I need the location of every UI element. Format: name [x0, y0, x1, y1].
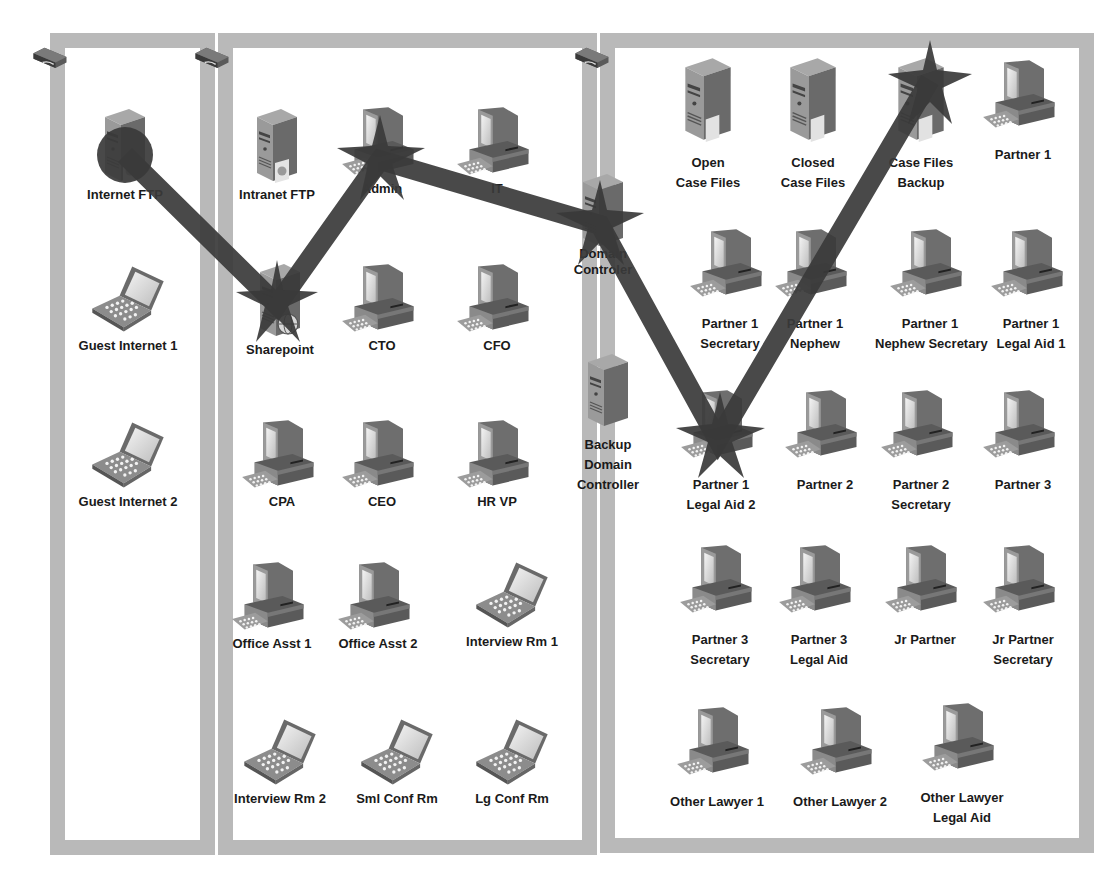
- desktop-icon: [989, 214, 1073, 314]
- node-label: Guest Internet 1: [73, 338, 183, 354]
- node-label: CFO: [442, 338, 552, 354]
- node-partner-1-legal-aid-1[interactable]: Partner 1 Legal Aid 1: [976, 214, 1086, 352]
- node-partner-1-legal-aid-2[interactable]: Partner 1 Legal Aid 2: [666, 375, 776, 513]
- node-sml-conf-rm[interactable]: Sml Conf Rm: [342, 715, 452, 807]
- node-internet-ftp[interactable]: Internet FTP: [70, 105, 180, 203]
- node-label: Nephew: [760, 336, 870, 352]
- node-label: Case Files: [653, 175, 763, 191]
- desktop-icon: [679, 375, 763, 475]
- desktop-icon: [230, 560, 314, 634]
- node-partner-1[interactable]: Partner 1: [968, 45, 1078, 163]
- node-label: CEO: [327, 494, 437, 510]
- node-ceo[interactable]: CEO: [327, 418, 437, 510]
- node-office-asst-1[interactable]: Office Asst 1: [217, 560, 327, 652]
- node-label: IT: [442, 181, 552, 197]
- node-partner-2[interactable]: Partner 2: [770, 375, 880, 493]
- node-label: Legal Aid 1: [976, 336, 1086, 352]
- node-label: Backup: [553, 437, 663, 453]
- node-backup-domain-controller[interactable]: Backup Domain Controller: [553, 345, 663, 493]
- node-office-asst-2[interactable]: Office Asst 2: [323, 560, 433, 652]
- node-hr-vp[interactable]: HR VP: [442, 418, 552, 510]
- router-icon[interactable]: [30, 46, 70, 68]
- node-label: CPA: [227, 494, 337, 510]
- node-label: Domain: [553, 457, 663, 473]
- node-it[interactable]: IT: [442, 105, 552, 197]
- node-admin[interactable]: Admin: [327, 105, 437, 197]
- node-label: Other Lawyer 2: [785, 794, 895, 810]
- node-label: Partner 1: [760, 316, 870, 332]
- ftp-server-icon: [95, 105, 155, 185]
- node-partner-3-legal-aid[interactable]: Partner 3 Legal Aid: [764, 530, 874, 668]
- file-server-icon: [674, 45, 742, 153]
- node-label: Backup: [866, 175, 976, 191]
- node-label: Secretary: [866, 497, 976, 513]
- node-case-files-backup[interactable]: Case Files Backup: [866, 45, 976, 191]
- desktop-icon: [455, 418, 539, 492]
- node-guest-internet-2[interactable]: Guest Internet 2: [73, 418, 183, 510]
- node-partner-3-secretary[interactable]: Partner 3 Secretary: [665, 530, 775, 668]
- desktop-icon: [879, 375, 963, 475]
- node-guest-internet-1[interactable]: Guest Internet 1: [73, 262, 183, 354]
- node-sharepoint[interactable]: Sharepoint: [225, 260, 335, 358]
- desktop-icon: [336, 560, 420, 634]
- node-label: Admin: [327, 181, 437, 197]
- node-label: Interview Rm 2: [225, 791, 335, 807]
- node-label: CTO: [327, 338, 437, 354]
- router-icon[interactable]: [572, 46, 612, 68]
- node-label: Sml Conf Rm: [342, 791, 452, 807]
- server-icon: [573, 170, 633, 250]
- desktop-icon: [981, 45, 1065, 145]
- node-cfo[interactable]: CFO: [442, 262, 552, 354]
- node-label: Interview Rm 1: [457, 634, 567, 650]
- node-label: Secretary: [968, 652, 1078, 668]
- node-label: Legal Aid: [907, 810, 1017, 826]
- desktop-icon: [455, 105, 539, 179]
- desktop-icon: [783, 375, 867, 475]
- node-partner-1-nephew-secretary[interactable]: Partner 1 Nephew Secretary: [875, 214, 985, 352]
- node-label: Intranet FTP: [222, 187, 332, 203]
- laptop-icon: [238, 715, 322, 789]
- desktop-icon: [888, 214, 972, 314]
- node-label: Closed: [758, 155, 868, 171]
- desktop-icon: [773, 214, 857, 314]
- node-label: Office Asst 2: [323, 636, 433, 652]
- node-cpa[interactable]: CPA: [227, 418, 337, 510]
- node-label: Legal Aid 2: [666, 497, 776, 513]
- desktop-icon: [883, 530, 967, 630]
- node-label: Domain: [548, 246, 658, 262]
- node-jr-partner-secretary[interactable]: Jr Partner Secretary: [968, 530, 1078, 668]
- node-closed-case-files[interactable]: Closed Case Files: [758, 45, 868, 191]
- node-label: Nephew Secretary: [875, 336, 985, 352]
- node-other-lawyer-legal-aid[interactable]: Other Lawyer Legal Aid: [907, 688, 1017, 826]
- node-domain-controller[interactable]: Domain Controler: [548, 170, 658, 278]
- node-label: Other Lawyer: [907, 790, 1017, 806]
- node-interview-rm-1[interactable]: Interview Rm 1: [457, 558, 567, 650]
- node-open-case-files[interactable]: Open Case Files: [653, 45, 763, 191]
- node-label: Guest Internet 2: [73, 494, 183, 510]
- node-interview-rm-2[interactable]: Interview Rm 2: [225, 715, 335, 807]
- node-label: Secretary: [665, 652, 775, 668]
- node-label: Partner 1: [875, 316, 985, 332]
- laptop-icon: [86, 418, 170, 492]
- node-label: Partner 3: [968, 477, 1078, 493]
- node-lg-conf-rm[interactable]: Lg Conf Rm: [457, 715, 567, 807]
- node-partner-1-nephew[interactable]: Partner 1 Nephew: [760, 214, 870, 352]
- node-partner-3[interactable]: Partner 3: [968, 375, 1078, 493]
- file-server-icon: [779, 45, 847, 153]
- desktop-icon: [920, 688, 1004, 788]
- router-icon[interactable]: [192, 46, 232, 68]
- desktop-icon: [340, 418, 424, 492]
- node-intranet-ftp[interactable]: Intranet FTP: [222, 105, 332, 203]
- node-other-lawyer-1[interactable]: Other Lawyer 1: [662, 692, 772, 810]
- node-label: Partner 3: [764, 632, 874, 648]
- desktop-icon: [455, 262, 539, 336]
- node-jr-partner[interactable]: Jr Partner: [870, 530, 980, 648]
- desktop-icon: [981, 375, 1065, 475]
- node-other-lawyer-2[interactable]: Other Lawyer 2: [785, 692, 895, 810]
- desktop-icon: [340, 105, 424, 179]
- node-label: Partner 1: [968, 147, 1078, 163]
- node-partner-2-secretary[interactable]: Partner 2 Secretary: [866, 375, 976, 513]
- node-label: Sharepoint: [225, 342, 335, 358]
- desktop-icon: [777, 530, 861, 630]
- node-cto[interactable]: CTO: [327, 262, 437, 354]
